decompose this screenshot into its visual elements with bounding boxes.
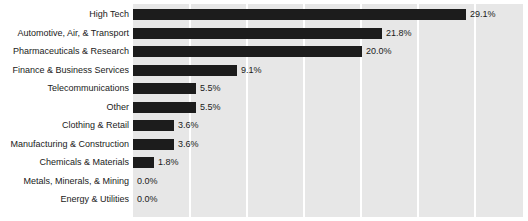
bar-row: Other5.5%	[0, 98, 528, 116]
bar-container: 5.5%	[133, 79, 523, 97]
value-label: 9.1%	[241, 61, 262, 79]
bar-container: 0.0%	[133, 172, 523, 190]
bar	[133, 120, 174, 131]
bar	[133, 46, 362, 57]
category-label: Automotive, Air, & Transport	[17, 24, 129, 42]
category-label: Telecommunications	[47, 79, 129, 97]
bar-rows: High Tech29.1%Automotive, Air, & Transpo…	[0, 0, 528, 221]
bar-row: High Tech29.1%	[0, 5, 528, 23]
bar-row: Metals, Minerals, & Mining0.0%	[0, 172, 528, 190]
bar	[133, 102, 196, 113]
value-label: 3.6%	[178, 135, 199, 153]
category-label: Finance & Business Services	[12, 61, 129, 79]
category-label: Energy & Utilities	[60, 190, 129, 208]
bar	[133, 9, 466, 20]
bar	[133, 65, 237, 76]
bar	[133, 157, 154, 168]
category-label: Clothing & Retail	[62, 116, 129, 134]
category-label: Manufacturing & Construction	[10, 135, 129, 153]
bar	[133, 28, 382, 39]
bar-container: 0.0%	[133, 190, 523, 208]
bar-container: 20.0%	[133, 42, 523, 60]
value-label: 0.0%	[137, 172, 158, 190]
value-label: 5.5%	[200, 98, 221, 116]
category-label: Metals, Minerals, & Mining	[23, 172, 129, 190]
value-label: 21.8%	[386, 24, 412, 42]
bar-row: Energy & Utilities0.0%	[0, 190, 528, 208]
bar-row: Telecommunications5.5%	[0, 79, 528, 97]
category-label: Other	[106, 98, 129, 116]
value-label: 5.5%	[200, 79, 221, 97]
bar-chart: High Tech29.1%Automotive, Air, & Transpo…	[0, 0, 528, 221]
bar-row: Clothing & Retail3.6%	[0, 116, 528, 134]
value-label: 20.0%	[366, 42, 392, 60]
value-label: 0.0%	[137, 190, 158, 208]
value-label: 3.6%	[178, 116, 199, 134]
category-label: Chemicals & Materials	[39, 153, 129, 171]
bar	[133, 83, 196, 94]
bar-container: 9.1%	[133, 61, 523, 79]
bar-container: 3.6%	[133, 116, 523, 134]
bar-container: 29.1%	[133, 5, 523, 23]
bar-container: 3.6%	[133, 135, 523, 153]
category-label: High Tech	[89, 5, 129, 23]
category-label: Pharmaceuticals & Research	[13, 42, 129, 60]
bar-row: Manufacturing & Construction3.6%	[0, 135, 528, 153]
value-label: 29.1%	[470, 5, 496, 23]
bar-row: Chemicals & Materials1.8%	[0, 153, 528, 171]
bar-row: Pharmaceuticals & Research20.0%	[0, 42, 528, 60]
bar	[133, 139, 174, 150]
bar-row: Finance & Business Services9.1%	[0, 61, 528, 79]
bar-container: 5.5%	[133, 98, 523, 116]
bar-row: Automotive, Air, & Transport21.8%	[0, 24, 528, 42]
value-label: 1.8%	[158, 153, 179, 171]
bar-container: 21.8%	[133, 24, 523, 42]
bar-container: 1.8%	[133, 153, 523, 171]
